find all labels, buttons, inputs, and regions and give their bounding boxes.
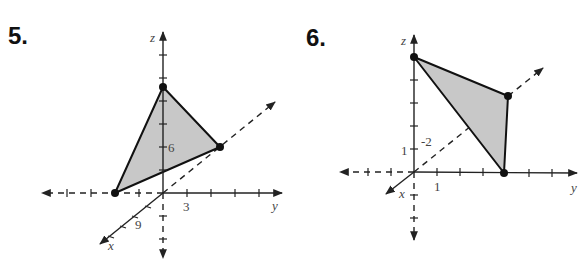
x-tick-label: 9 — [135, 217, 142, 232]
x-axis-label: x — [398, 186, 405, 201]
vertex-on-z — [159, 83, 167, 91]
vertex-on-x-negative — [504, 92, 512, 100]
vertex-on-z — [410, 53, 418, 61]
x-tick-label: -2 — [421, 134, 432, 149]
z-axis-label: z — [149, 30, 155, 45]
triangle-plane — [414, 57, 508, 173]
y-tick-label: 3 — [183, 199, 190, 214]
figure-5: z y x 6 3 9 — [42, 30, 282, 258]
y-tick-label: 1 — [434, 179, 441, 194]
vertex-on-x-negative — [216, 143, 224, 151]
vertex-on-y — [500, 169, 508, 177]
z-axis-label: z — [400, 33, 406, 48]
y-axis-label: y — [270, 198, 278, 213]
y-axis-label: y — [569, 180, 577, 195]
figure-6: z y x 1 1 -2 — [340, 33, 577, 240]
z-tick-label: 6 — [168, 140, 175, 155]
z-tick-label: 1 — [401, 143, 408, 158]
figures-canvas: z y x 6 3 9 z y x 1 1 -2 — [0, 0, 582, 268]
vertex-on-y-negative — [111, 189, 119, 197]
x-axis-label: x — [107, 238, 114, 253]
